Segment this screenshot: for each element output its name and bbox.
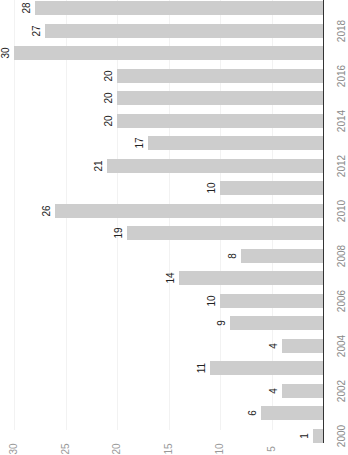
category-tick-label: 2010 <box>336 197 348 225</box>
data-label: 27 <box>31 21 43 41</box>
bar <box>220 294 323 308</box>
bar <box>230 316 323 330</box>
data-label: 20 <box>103 111 115 131</box>
value-tick-label: 5 <box>266 439 278 455</box>
bar <box>127 226 323 240</box>
data-label: 4 <box>268 336 280 356</box>
data-label: 30 <box>0 43 12 63</box>
bar <box>241 249 323 263</box>
bar <box>313 429 323 443</box>
data-label: 10 <box>206 178 218 198</box>
gridline <box>14 0 15 430</box>
category-tick-label: 2016 <box>336 62 348 90</box>
category-tick-label: 2012 <box>336 152 348 180</box>
category-tick-label: 2008 <box>336 242 348 270</box>
data-label: 10 <box>206 291 218 311</box>
bar <box>35 1 323 15</box>
value-tick-label: 20 <box>111 439 123 455</box>
bar <box>179 271 323 285</box>
data-label: 9 <box>216 313 228 333</box>
data-label: 17 <box>134 133 146 153</box>
data-label: 20 <box>103 66 115 86</box>
bar <box>55 204 323 218</box>
category-tick-label: 2014 <box>336 107 348 135</box>
category-tick-label: 2004 <box>336 332 348 360</box>
data-label: 4 <box>268 381 280 401</box>
data-label: 20 <box>103 88 115 108</box>
category-tick-label: 2002 <box>336 377 348 405</box>
bar <box>117 91 323 105</box>
bar <box>107 159 323 173</box>
bar <box>282 384 323 398</box>
bar <box>45 24 323 38</box>
data-label: 8 <box>227 246 239 266</box>
value-tick-label: 10 <box>214 439 226 455</box>
bar <box>117 114 323 128</box>
value-tick-label: 30 <box>8 439 20 455</box>
data-label: 26 <box>41 201 53 221</box>
category-axis <box>323 0 324 443</box>
data-label: 6 <box>247 403 259 423</box>
bar <box>261 406 323 420</box>
bar <box>117 69 323 83</box>
data-label: 11 <box>196 358 208 378</box>
bar <box>148 136 323 150</box>
bar <box>14 46 323 60</box>
data-label: 1 <box>299 426 311 446</box>
data-label: 14 <box>165 268 177 288</box>
data-label: 21 <box>93 156 105 176</box>
value-tick-label: 25 <box>60 439 72 455</box>
data-label: 28 <box>21 0 33 18</box>
bar <box>210 361 323 375</box>
data-label: 19 <box>113 223 125 243</box>
category-tick-label: 2000 <box>336 422 348 450</box>
category-tick-label: 2018 <box>336 17 348 45</box>
bar <box>220 181 323 195</box>
value-tick-label: 15 <box>163 439 175 455</box>
bar <box>282 339 323 353</box>
category-tick-label: 2006 <box>336 287 348 315</box>
